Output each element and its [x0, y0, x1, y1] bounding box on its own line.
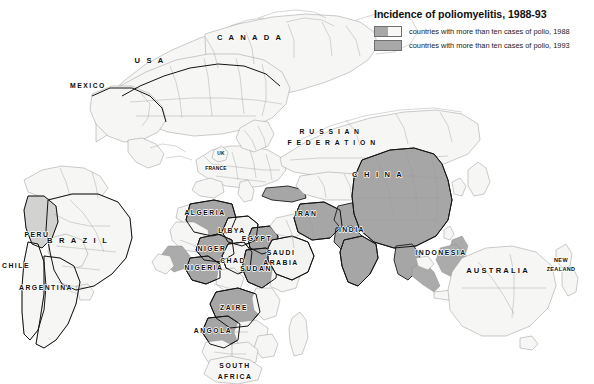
label-india: INDIA [339, 226, 365, 233]
label-new-zealand-line2: ZEALAND [547, 266, 576, 272]
label-iran: IRAN [295, 210, 318, 217]
label-france: FRANCE [205, 166, 227, 171]
label-new-zealand: NEW [554, 257, 568, 263]
legend-label-1988: countries with more than ten cases of po… [409, 26, 570, 37]
label-argentina: ARGENTINA [19, 284, 73, 291]
legend-label-1993: countries with more than ten cases of po… [409, 40, 570, 51]
legend-swatch-1988 [374, 26, 402, 37]
legend-swatch-1988-right [388, 27, 401, 36]
legend-swatch-1993 [374, 40, 402, 51]
label-usa: U S A [135, 56, 166, 65]
label-russian-federation-line2: F E D E R A T I O N [287, 139, 376, 146]
legend-swatch-1993-left [375, 41, 388, 50]
label-chad: CHAD [220, 257, 246, 264]
label-south-africa: SOUTH [219, 362, 250, 369]
label-algeria: ALGERIA [184, 209, 225, 216]
label-niger: NIGER [197, 245, 226, 252]
label-russian-federation: R U S S I A N [300, 128, 361, 135]
label-sudan: SUDAN [240, 265, 272, 272]
label-china: C H I N A [352, 170, 404, 179]
label-brazil: B R A Z I L [47, 236, 109, 245]
label-indonesia: INDONESIA [415, 249, 466, 256]
label-mexico: MEXICO [70, 82, 106, 89]
label-south-africa-line2: AFRICA [218, 373, 253, 380]
label-australia: AUSTRALIA [466, 266, 530, 275]
label-saudi-arabia: SAUDI [267, 249, 296, 256]
legend-title: Incidence of poliomyelitis, 1988-93 [374, 8, 588, 20]
world-map: U S A C A N A D A MEXICO B R A Z I L PER… [0, 0, 594, 384]
legend-swatch-1988-left [375, 27, 388, 36]
label-zaire: ZAIRE [220, 304, 248, 311]
map-legend: Incidence of poliomyelitis, 1988-93 coun… [374, 8, 588, 53]
label-angola: ANGOLA [194, 327, 232, 334]
label-libya: LIBYA [218, 227, 245, 234]
legend-swatch-1993-right [388, 41, 401, 50]
label-egypt: EGYPT [242, 235, 273, 242]
map-canvas: U S A C A N A D A MEXICO B R A Z I L PER… [0, 0, 594, 384]
label-nigeria: NIGERIA [185, 264, 224, 271]
label-peru: PERU [25, 231, 50, 238]
legend-row-1988: countries with more than ten cases of po… [374, 25, 588, 37]
label-uk: UK [217, 151, 225, 156]
label-canada: C A N A D A [217, 33, 283, 42]
legend-row-1993: countries with more than ten cases of po… [374, 39, 588, 51]
label-chile: CHILE [2, 262, 30, 269]
